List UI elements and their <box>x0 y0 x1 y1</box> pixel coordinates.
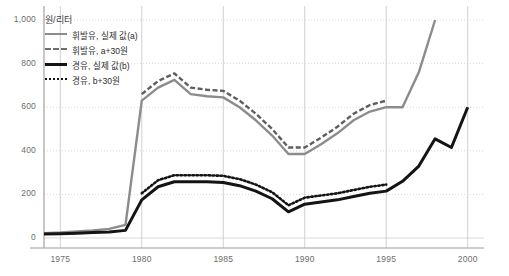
legend-item-label: 경유, b+30원 <box>72 74 120 86</box>
legend-swatch-icon <box>45 45 67 54</box>
chart-container: 원/리터 02004006008001,000 1975198019851990… <box>0 0 509 276</box>
legend-item-label: 휘발유, a+30원 <box>72 44 128 56</box>
legend-item: 휘발유, a+30원 <box>45 43 138 56</box>
legend-swatch-icon <box>45 30 67 39</box>
chart-legend: 휘발유, 실제 값(a)휘발유, a+30원경유, 실제 값(b)경유, b+3… <box>45 28 138 86</box>
legend-item: 경유, 실제 값(b) <box>45 58 138 71</box>
legend-item-label: 휘발유, 실제 값(a) <box>72 29 138 41</box>
x-tick-label: 1990 <box>285 254 325 264</box>
y-tick-label: 1,000 <box>2 14 36 24</box>
x-tick-label: 1980 <box>122 254 162 264</box>
legend-swatch-icon <box>45 75 67 84</box>
y-tick-label: 800 <box>2 58 36 68</box>
y-tick-label: 600 <box>2 101 36 111</box>
y-tick-label: 400 <box>2 145 36 155</box>
x-tick-label: 1975 <box>40 254 80 264</box>
y-tick-label: 200 <box>2 188 36 198</box>
series-line-diesel_plus30 <box>142 175 386 205</box>
legend-item: 경유, b+30원 <box>45 73 138 86</box>
y-axis-unit-label: 원/리터 <box>45 13 72 26</box>
y-tick-label: 0 <box>2 232 36 242</box>
x-tick-label: 1995 <box>366 254 406 264</box>
x-tick-label: 2000 <box>448 254 488 264</box>
series-line-diesel_actual <box>44 107 468 234</box>
legend-swatch-icon <box>45 60 67 69</box>
legend-item-label: 경유, 실제 값(b) <box>72 59 130 71</box>
legend-item: 휘발유, 실제 값(a) <box>45 28 138 41</box>
x-tick-label: 1985 <box>203 254 243 264</box>
